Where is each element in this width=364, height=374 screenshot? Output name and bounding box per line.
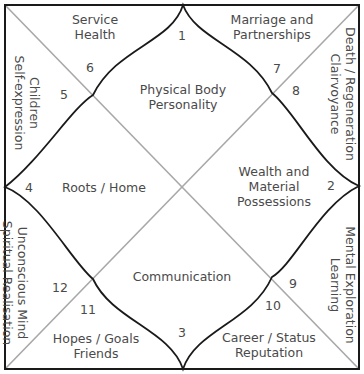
house-1-label: Physical Body Personality <box>140 82 226 112</box>
house-4-line1: Roots / Home <box>62 180 146 195</box>
house-6-label: Service Health <box>72 12 118 42</box>
house-6-number: 6 <box>86 61 94 74</box>
house-7-line1: Marriage and <box>231 12 314 27</box>
house-9-label: Mental Exploration Learning <box>328 220 358 350</box>
house-7-label: Marriage and Partnerships <box>231 12 314 42</box>
house-12-line1: Unconscious Mind <box>15 218 30 348</box>
house-9-number: 9 <box>289 277 297 290</box>
house-8-line1: Death / Regeneration <box>343 24 358 164</box>
house-1-number: 1 <box>178 29 186 42</box>
house-1-line2: Personality <box>140 97 226 112</box>
house-2-number: 2 <box>327 179 335 192</box>
house-2-label: Wealth and Material Possessions <box>237 164 311 209</box>
house-1-line1: Physical Body <box>140 82 226 97</box>
house-3-label: Communication <box>133 269 232 284</box>
house-2-line2: Material <box>237 179 311 194</box>
house-9-line2: Learning <box>328 220 343 350</box>
house-8-label: Death / Regeneration Clairvoyance <box>328 24 358 164</box>
house-4-number: 4 <box>25 181 33 194</box>
house-10-number: 10 <box>265 299 281 312</box>
house-5-line1: Children <box>27 48 42 158</box>
house-11-line1: Hopes / Goals <box>53 331 139 346</box>
house-3-number: 3 <box>178 326 186 339</box>
house-9-line1: Mental Exploration <box>343 220 358 350</box>
house-10-label: Career / Status Reputation <box>222 330 316 360</box>
house-2-line3: Possessions <box>237 194 311 209</box>
house-2-line1: Wealth and <box>237 164 311 179</box>
house-5-line2: Self-expression <box>12 48 27 158</box>
house-5-label: Children Self-expression <box>12 48 42 158</box>
house-11-label: Hopes / Goals Friends <box>53 331 139 361</box>
house-7-number: 7 <box>273 62 281 75</box>
house-12-line2: Spiritual Realisation <box>0 218 15 348</box>
house-12-label: Unconscious Mind Spiritual Realisation <box>0 218 30 348</box>
house-11-number: 11 <box>80 303 96 316</box>
house-8-number: 8 <box>292 84 300 97</box>
house-10-line1: Career / Status <box>222 330 316 345</box>
house-5-number: 5 <box>60 88 68 101</box>
house-6-line2: Health <box>72 27 118 42</box>
house-11-line2: Friends <box>53 346 139 361</box>
house-10-line2: Reputation <box>222 345 316 360</box>
house-4-label: Roots / Home <box>62 180 146 195</box>
house-12-number: 12 <box>52 281 68 294</box>
house-6-line1: Service <box>72 12 118 27</box>
house-7-line2: Partnerships <box>231 27 314 42</box>
house-3-line1: Communication <box>133 269 232 284</box>
house-8-line2: Clairvoyance <box>328 24 343 164</box>
